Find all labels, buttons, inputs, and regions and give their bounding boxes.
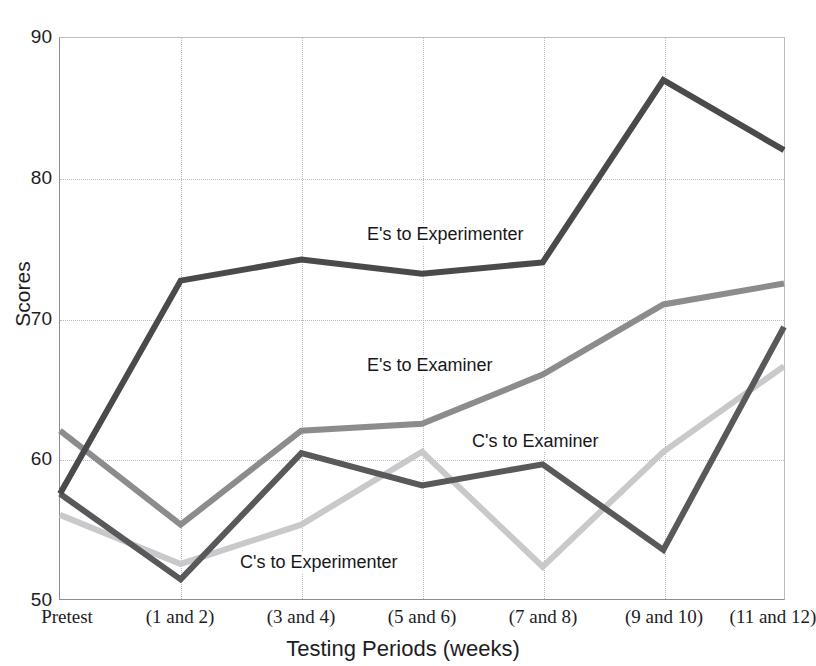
y-tick-label: 90 xyxy=(8,26,52,48)
series-line xyxy=(60,283,784,524)
y-tick-label: 60 xyxy=(8,448,52,470)
x-tick-label: (3 and 4) xyxy=(267,606,336,628)
x-axis-title: Testing Periods (weeks) xyxy=(0,636,806,662)
annotation-cs-to-experimenter: C's to Experimenter xyxy=(238,552,400,573)
x-tick-label: (9 and 10) xyxy=(625,606,703,628)
x-tick-label: (1 and 2) xyxy=(146,606,215,628)
series-lines xyxy=(60,38,784,599)
series-line xyxy=(60,366,784,567)
x-tick-label: Pretest xyxy=(41,606,93,628)
x-tick-label: (5 and 6) xyxy=(388,606,457,628)
chart-title-cropped xyxy=(0,0,806,20)
x-axis-tick-labels: Pretest(1 and 2)(3 and 4)(5 and 6)(7 and… xyxy=(0,606,806,636)
y-axis-title: Scores xyxy=(11,224,35,364)
series-line xyxy=(60,80,784,494)
annotation-cs-to-examiner: C's to Examiner xyxy=(470,431,600,452)
plot-area xyxy=(59,37,785,600)
annotation-es-to-examiner: E's to Examiner xyxy=(365,355,494,376)
y-tick-label: 80 xyxy=(8,167,52,189)
annotation-es-to-experimenter: E's to Experimenter xyxy=(365,224,526,245)
x-tick-label: (11 and 12) xyxy=(730,606,816,628)
x-tick-label: (7 and 8) xyxy=(509,606,578,628)
